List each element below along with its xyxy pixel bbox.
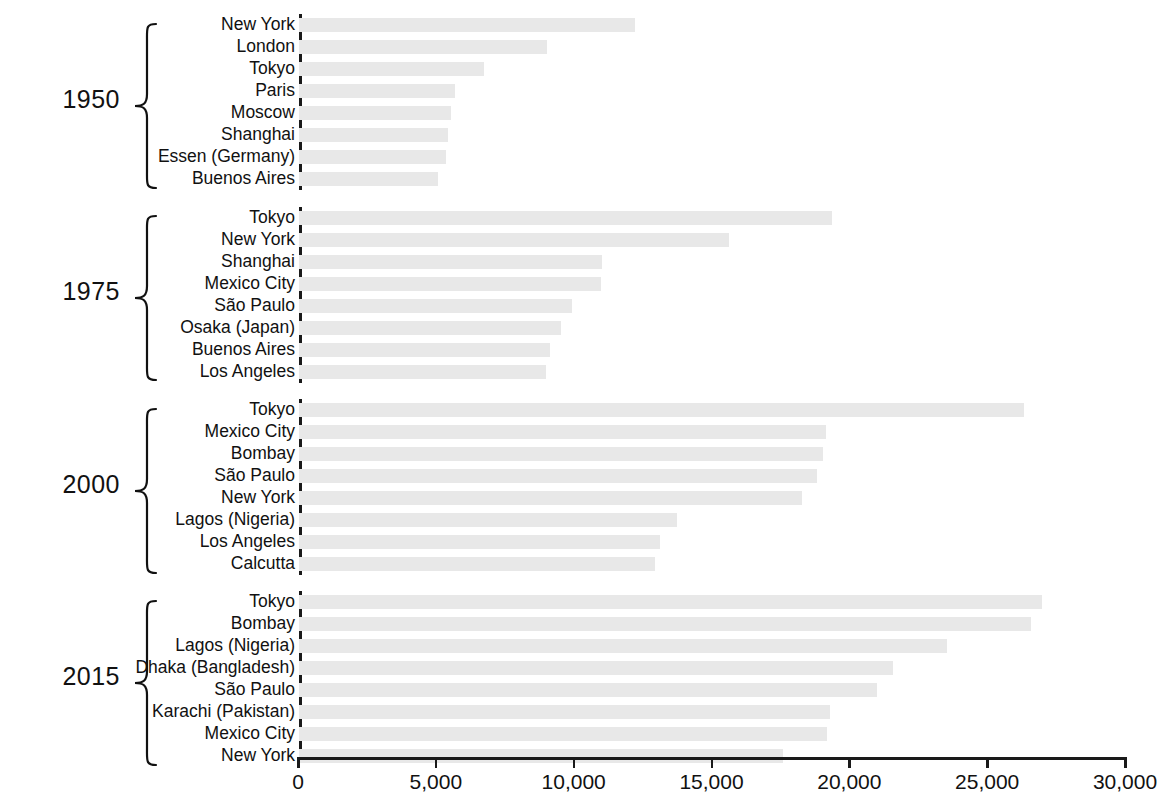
bar-row bbox=[299, 207, 832, 229]
bar-row bbox=[299, 251, 602, 273]
category-label: Tokyo bbox=[249, 57, 295, 79]
bar-row bbox=[299, 443, 823, 465]
bar bbox=[299, 639, 947, 653]
group-brace-1975 bbox=[132, 214, 158, 382]
bar bbox=[299, 557, 655, 571]
category-label: São Paulo bbox=[214, 464, 295, 486]
category-label: Osaka (Japan) bbox=[180, 316, 295, 338]
category-label: New York bbox=[221, 744, 295, 766]
bar bbox=[299, 299, 572, 313]
group-year-label-2015: 2015 bbox=[10, 662, 120, 691]
x-axis-tick-label: 5,000 bbox=[410, 770, 463, 794]
bar bbox=[299, 150, 446, 164]
category-label: Mexico City bbox=[205, 722, 295, 744]
category-label: New York bbox=[221, 13, 295, 35]
bar bbox=[299, 617, 1031, 631]
bar bbox=[299, 727, 827, 741]
bar-row bbox=[299, 531, 660, 553]
bar-row bbox=[299, 58, 484, 80]
x-axis-tick bbox=[986, 757, 989, 768]
category-label: Mexico City bbox=[205, 420, 295, 442]
category-label: Dhaka (Bangladesh) bbox=[135, 656, 295, 678]
category-label: Shanghai bbox=[221, 123, 295, 145]
bar-row bbox=[299, 273, 601, 295]
category-label: Essen (Germany) bbox=[158, 145, 295, 167]
bar-row bbox=[299, 613, 1031, 635]
x-axis-tick bbox=[1124, 757, 1127, 768]
bar bbox=[299, 62, 484, 76]
group-brace-2015 bbox=[132, 599, 158, 767]
bar-row bbox=[299, 102, 451, 124]
bar bbox=[299, 277, 601, 291]
bar bbox=[299, 172, 438, 186]
x-axis-tick-label: 0 bbox=[292, 770, 304, 794]
bar bbox=[299, 211, 832, 225]
chart-canvas: 1950 1975 2000 2015 New YorkLondonTokyoP… bbox=[0, 0, 1164, 812]
category-label: Calcutta bbox=[231, 552, 295, 574]
category-label: Los Angeles bbox=[200, 360, 295, 382]
x-axis-tick-label: 10,000 bbox=[542, 770, 606, 794]
category-label: Bombay bbox=[231, 442, 295, 464]
x-axis-tick bbox=[297, 757, 300, 768]
bar bbox=[299, 447, 823, 461]
bar bbox=[299, 469, 817, 483]
category-label: Tokyo bbox=[249, 590, 295, 612]
bar-row bbox=[299, 295, 572, 317]
bar-row bbox=[299, 399, 1024, 421]
group-year-label-2000: 2000 bbox=[10, 470, 120, 499]
category-label: Buenos Aires bbox=[192, 167, 295, 189]
bar bbox=[299, 365, 546, 379]
category-label: London bbox=[237, 35, 295, 57]
bar bbox=[299, 321, 561, 335]
x-axis-tick bbox=[848, 757, 851, 768]
bar-row bbox=[299, 80, 455, 102]
category-label: Karachi (Pakistan) bbox=[152, 700, 295, 722]
x-axis-tick bbox=[435, 757, 438, 768]
category-label: Lagos (Nigeria) bbox=[175, 634, 295, 656]
category-label: New York bbox=[221, 228, 295, 250]
bar-row bbox=[299, 421, 826, 443]
bar bbox=[299, 128, 448, 142]
category-label: New York bbox=[221, 486, 295, 508]
bar bbox=[299, 18, 635, 32]
bar bbox=[299, 661, 893, 675]
bar-row bbox=[299, 146, 446, 168]
x-axis-tick-label: 20,000 bbox=[817, 770, 881, 794]
bar-row bbox=[299, 14, 635, 36]
bar-row bbox=[299, 723, 827, 745]
group-brace-2000 bbox=[132, 407, 158, 575]
bar-row bbox=[299, 679, 877, 701]
category-label: Shanghai bbox=[221, 250, 295, 272]
category-label: Lagos (Nigeria) bbox=[175, 508, 295, 530]
bar bbox=[299, 403, 1024, 417]
bar-row bbox=[299, 553, 655, 575]
category-label: Moscow bbox=[231, 101, 295, 123]
bar bbox=[299, 595, 1042, 609]
bar bbox=[299, 513, 677, 527]
bar bbox=[299, 84, 455, 98]
plot-area bbox=[299, 0, 1164, 812]
bar-row bbox=[299, 701, 830, 723]
bar bbox=[299, 255, 602, 269]
category-label: Paris bbox=[255, 79, 295, 101]
bar-row bbox=[299, 339, 550, 361]
bar bbox=[299, 705, 830, 719]
bar bbox=[299, 106, 451, 120]
bar-row bbox=[299, 465, 817, 487]
bar bbox=[299, 343, 550, 357]
bar-row bbox=[299, 124, 448, 146]
category-label: Buenos Aires bbox=[192, 338, 295, 360]
group-year-label-1975: 1975 bbox=[10, 277, 120, 306]
category-label: Tokyo bbox=[249, 206, 295, 228]
bar-row bbox=[299, 657, 893, 679]
bar-row bbox=[299, 36, 547, 58]
bar bbox=[299, 683, 877, 697]
bar-row bbox=[299, 487, 802, 509]
x-axis-tick-label: 15,000 bbox=[679, 770, 743, 794]
bar bbox=[299, 233, 729, 247]
bar-row bbox=[299, 229, 729, 251]
category-label: Bombay bbox=[231, 612, 295, 634]
bar bbox=[299, 535, 660, 549]
x-axis-tick-label: 25,000 bbox=[955, 770, 1019, 794]
bar-row bbox=[299, 591, 1042, 613]
